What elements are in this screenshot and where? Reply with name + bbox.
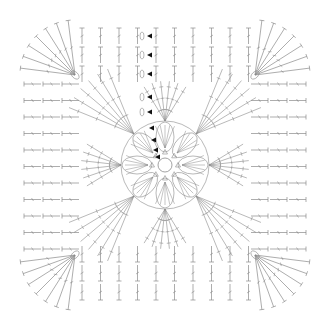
edge-stitch-top xyxy=(172,47,177,63)
edge-stitch-top xyxy=(246,28,251,44)
edge-stitch-left xyxy=(43,148,60,153)
edge-stitch-top xyxy=(135,47,140,63)
chain-loop xyxy=(140,70,144,78)
fan-tick xyxy=(169,110,172,112)
edge-stitch-left xyxy=(24,164,41,169)
fan-tick xyxy=(181,237,184,239)
edge-stitch-right xyxy=(289,247,306,252)
edge-stitch-left xyxy=(43,164,60,169)
edge-stitch-bottom xyxy=(117,246,122,262)
edge-stitch-right xyxy=(251,164,268,169)
chain-loop xyxy=(140,51,144,59)
fan-tick xyxy=(99,111,101,114)
edge-stitch-right xyxy=(289,131,306,136)
edge-stitch-left xyxy=(62,131,79,136)
edge-stitch-bottom xyxy=(172,246,177,262)
edge-stitch-left xyxy=(24,197,41,202)
fan-tick xyxy=(246,101,248,104)
edge-stitch-left xyxy=(43,98,60,103)
edge-stitch-bottom xyxy=(246,246,251,262)
fan-strand xyxy=(89,81,134,134)
corner-stitch xyxy=(255,255,287,303)
edge-stitch-left xyxy=(24,214,41,219)
edge-stitch-bottom xyxy=(154,246,159,262)
edge-stitch-left xyxy=(24,82,41,87)
stitch-top xyxy=(43,27,47,30)
corner-stitch xyxy=(34,255,75,296)
row-start-marker xyxy=(155,155,160,160)
edge-stitch-bottom xyxy=(191,265,196,281)
edge-stitch-top xyxy=(98,47,103,63)
edge-stitch-right xyxy=(270,164,287,169)
edge-stitch-bottom xyxy=(246,265,251,281)
radial-fans xyxy=(69,69,261,261)
edge-stitch-right xyxy=(270,247,287,252)
edge-stitch-right xyxy=(289,82,306,87)
fan-tick xyxy=(226,82,229,84)
edge-stitch-left xyxy=(62,115,79,120)
edge-stitch-right xyxy=(289,230,306,235)
edge-stitch-top xyxy=(191,47,196,63)
edge-stitch-right xyxy=(251,82,268,87)
edge-stitch-right xyxy=(251,181,268,186)
edge-stitch-right xyxy=(270,115,287,120)
row-start-markers xyxy=(140,32,160,160)
fan-strand xyxy=(196,196,249,241)
edge-stitch-left xyxy=(43,230,60,235)
edge-stitch-right xyxy=(270,181,287,186)
row-start-marker xyxy=(153,148,158,153)
edge-stitch-right xyxy=(270,214,287,219)
edge-stitch-top xyxy=(117,28,122,44)
fan-tick xyxy=(229,111,231,114)
fan-strand xyxy=(196,89,249,134)
magic-ring xyxy=(158,158,172,172)
edge-stitch-top xyxy=(80,28,85,44)
edge-stitch-bottom xyxy=(209,284,214,300)
edge-stitch-bottom xyxy=(228,265,233,281)
corner-stitch xyxy=(43,255,75,303)
petal-stitch xyxy=(160,125,165,148)
edge-stitch-left xyxy=(62,197,79,202)
corner-stitch xyxy=(27,43,75,75)
stitch-top xyxy=(309,66,310,71)
chain-loop xyxy=(140,93,144,101)
row-start-marker xyxy=(147,34,152,39)
petal-stitch xyxy=(155,182,165,204)
fan-tick xyxy=(101,82,104,84)
edge-stitch-right xyxy=(270,82,287,87)
corner-stitch xyxy=(255,43,303,75)
fan-tick xyxy=(181,91,184,93)
edge-stitch-top xyxy=(209,66,214,82)
fan-strand xyxy=(81,196,134,241)
fan-tick xyxy=(91,181,93,184)
fan-tick xyxy=(151,100,154,102)
edge-stitch-bottom xyxy=(117,265,122,281)
edge-stitch-top xyxy=(135,28,140,44)
edge-stitch-bottom xyxy=(172,265,177,281)
fan-tick xyxy=(82,101,84,104)
edge-stitch-right xyxy=(289,148,306,153)
fan-tick xyxy=(151,227,154,229)
petal-stitch xyxy=(177,137,193,153)
fan-tick xyxy=(100,175,102,178)
stitch-top xyxy=(27,282,30,286)
fan-tick xyxy=(175,100,178,102)
edge-stitch-left xyxy=(43,247,60,252)
fan-strand xyxy=(89,196,134,249)
edge-stitch-left xyxy=(24,115,41,120)
edge-stitch-right xyxy=(289,164,306,169)
edge-stitch-bottom xyxy=(172,284,177,300)
corner-stitch xyxy=(43,27,75,75)
corner-stitch xyxy=(255,27,287,75)
stitch-top xyxy=(282,27,286,30)
fan-strand xyxy=(108,69,134,134)
edge-stitch-left xyxy=(24,148,41,153)
petal-stitch xyxy=(165,125,170,148)
edge-stitch-left xyxy=(43,214,60,219)
edge-stitch-top xyxy=(117,47,122,63)
edge-stitch-top xyxy=(191,66,196,82)
crochet-chart xyxy=(0,0,330,327)
corner-stitch xyxy=(34,34,75,75)
fan-tick xyxy=(145,237,148,239)
edge-stitch-left xyxy=(62,164,79,169)
